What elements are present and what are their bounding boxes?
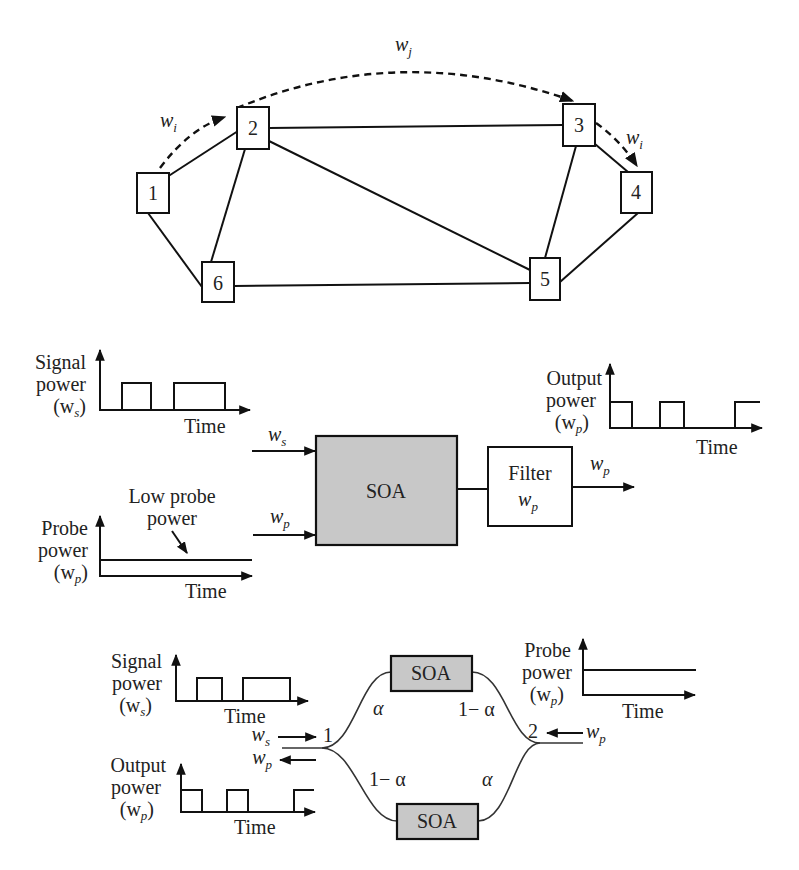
edge-1-2 [167,131,238,177]
label-wi-right: wi [626,126,643,152]
label-wj-top: wj [395,33,412,59]
plot-ylabel-line2: power [111,776,161,799]
plot-xlabel: Time [184,415,226,437]
output-power-plot: Output power (wp) Time [110,754,315,838]
plot-ylabel-line3: (wp) [120,798,154,823]
network-node-1: 1 [137,173,169,213]
output-power-plot: Output power (wp) Time [546,364,762,458]
xgm-converter: Signal power (ws) Time Probe power (wp) … [35,350,762,602]
probe-annotation-line1: Low probe [128,485,215,508]
wavelength-conversion-diagram: wi wj wi 1 2 3 4 5 6 Signal [0,0,799,870]
edge-1-6 [148,213,202,287]
plot-ylabel-line3: (wp) [555,411,589,436]
edge-2-6 [211,149,245,262]
port1-label: 1 [323,724,333,746]
plot-ylabel-line2: power [112,672,162,695]
edge-6-5 [234,283,530,286]
edge-3-5 [545,146,576,258]
signal-pulse [197,678,222,701]
soa-label: SOA [417,810,458,832]
network-node-2: 2 [237,107,269,149]
signal-power-plot: Signal power (ws) Time [35,350,250,437]
filter-block: Filter wp [488,447,572,526]
plot-ylabel-line2: power [36,373,86,396]
probe-power-plot: Probe power (wp) Time [522,639,696,722]
network-node-3: 3 [563,104,595,146]
plot-ylabel-line2: power [38,539,88,562]
node-label: 5 [540,268,550,290]
output-pulse [660,402,684,428]
node-label: 2 [248,117,258,139]
node-label: 3 [574,114,584,136]
port2-label: 2 [528,720,538,742]
port1-wp-label: wp [252,746,272,772]
one-minus-alpha-lower-left: 1− α [369,768,406,790]
network-node-4: 4 [621,172,652,213]
network-topology: wi wj wi 1 2 3 4 5 6 [137,33,652,302]
plot-ylabel-line1: Probe [41,517,88,539]
signal-power-plot: Signal power (ws) Time [111,650,308,727]
probe-power-plot: Probe power (wp) Low probe power Time [38,485,252,602]
plot-ylabel-line1: Signal [111,650,163,673]
soa-block: SOA [316,436,457,545]
plot-ylabel-line1: Output [546,367,602,390]
signal-pulse [243,678,290,701]
edge-2-3 [269,125,563,128]
alpha-label-lower-right: α [482,768,493,790]
plot-xlabel: Time [185,580,227,602]
plot-ylabel-line2: power [546,389,596,412]
input-ws-label: ws [268,423,286,449]
network-node-6: 6 [202,262,234,302]
plot-ylabel-line3: (wp) [54,561,88,586]
annotation-arrow [172,531,187,553]
edge-4-5 [560,213,638,282]
output-pulse [610,402,632,428]
plot-ylabel-line1: Signal [35,351,87,374]
signal-pulse [174,383,225,410]
node-label: 4 [631,181,641,203]
soa-label: SOA [366,480,407,502]
soa-bottom: SOA [397,804,478,839]
plot-xlabel: Time [696,436,738,458]
plot-ylabel-line3: (wp) [530,683,564,708]
plot-ylabel-line1: Probe [524,639,571,661]
soa-label: SOA [411,662,452,684]
node-label: 1 [148,182,158,204]
output-pulse [181,790,202,812]
plot-ylabel-line3: (ws) [53,395,86,420]
plot-ylabel-line2: power [522,661,572,684]
output-pulse [294,790,314,812]
node-label: 6 [213,272,223,294]
soa-top: SOA [391,656,472,691]
plot-xlabel: Time [234,816,276,838]
input-wp-label: wp [270,505,290,531]
filter-label: Filter [508,462,552,484]
output-pulse [227,790,248,812]
label-wi-left: wi [160,109,177,135]
signal-pulse [122,383,151,410]
port2-wp-label: wp [586,720,606,746]
alpha-label-upper-left: α [373,697,384,719]
plot-ylabel-line3: (ws) [119,694,152,719]
plot-ylabel-line1: Output [110,754,166,777]
output-wp-label: wp [590,452,610,478]
edge-2-5 [269,141,530,270]
output-pulse [735,402,760,428]
plot-xlabel: Time [622,700,664,722]
lightpath-wj-2-to-3 [237,72,573,108]
network-node-5: 5 [530,258,560,300]
one-minus-alpha-upper-right: 1− α [458,698,495,720]
xpm-converter: Signal power (ws) Time Output power (wp)… [110,639,696,839]
probe-annotation-line2: power [147,507,197,530]
